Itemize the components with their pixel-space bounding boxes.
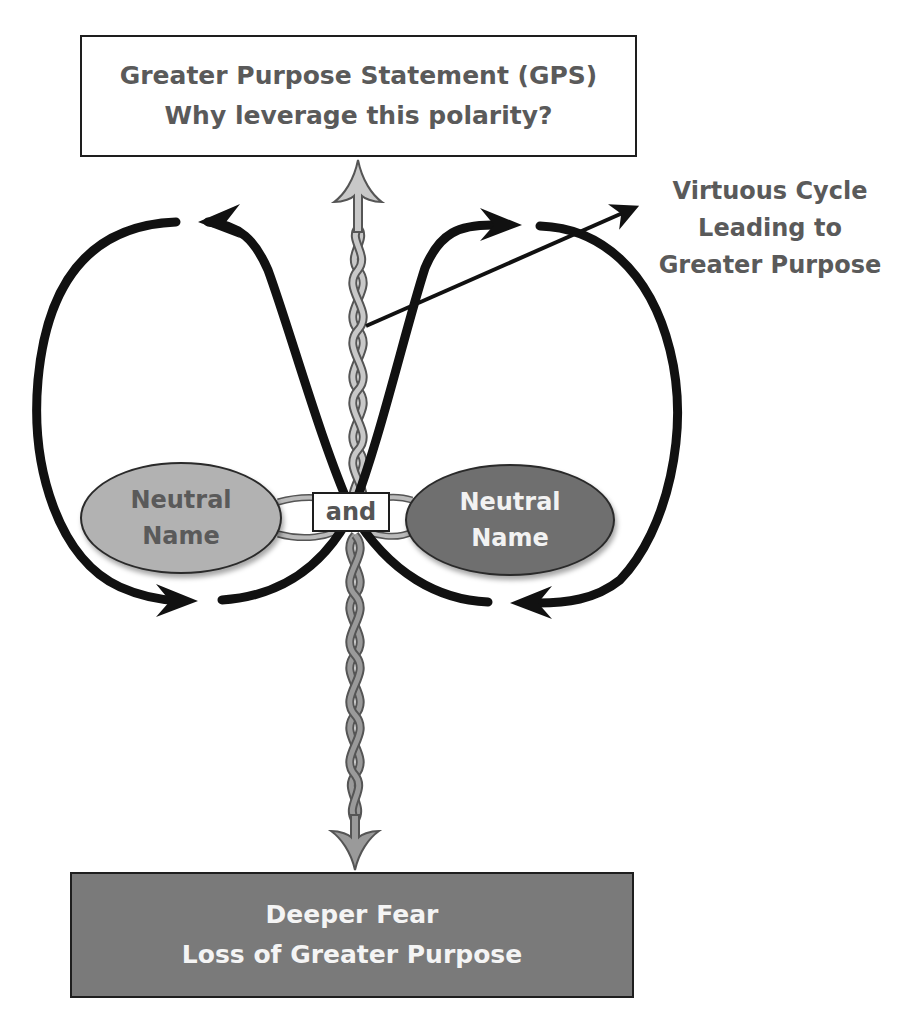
greater-purpose-box: Greater Purpose Statement (GPS) Why leve… [80,35,637,157]
braided-arrow-down-icon [331,535,379,870]
cycle-label-line1: Virtuous Cycle [640,173,900,210]
gps-title: Greater Purpose Statement (GPS) [120,56,598,96]
right-pole-line2: Name [471,520,549,556]
left-pole-ellipse: Neutral Name [80,462,282,574]
gps-question: Why leverage this polarity? [165,96,553,136]
and-connector-box: and [312,492,390,532]
cycle-label-line2: Leading to [640,210,900,247]
left-pole-line2: Name [142,518,220,554]
right-pole-line1: Neutral [459,484,560,520]
deeper-fear-box: Deeper Fear Loss of Greater Purpose [70,872,634,998]
cycle-label-line3: Greater Purpose [640,247,900,284]
fear-subtitle: Loss of Greater Purpose [182,935,522,975]
virtuous-cycle-label: Virtuous Cycle Leading to Greater Purpos… [640,173,900,284]
right-pole-ellipse: Neutral Name [405,464,615,576]
fear-title: Deeper Fear [266,895,439,935]
and-label: and [326,498,376,526]
left-pole-line1: Neutral [130,482,231,518]
